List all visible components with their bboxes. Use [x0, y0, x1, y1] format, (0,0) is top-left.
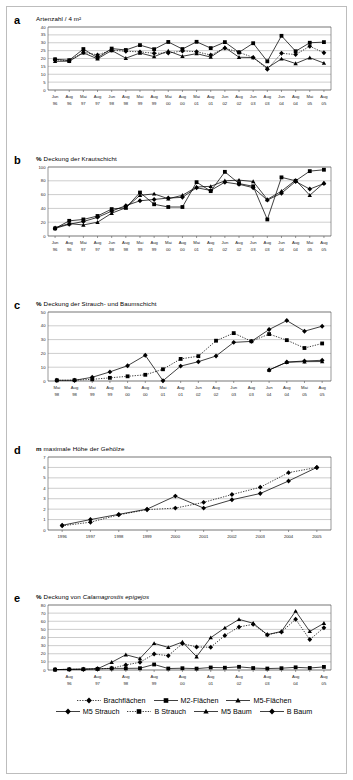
legend-item-m5-strauch[interactable]: M5 Strauch	[55, 707, 120, 716]
x-axis-label-year: 97	[81, 101, 86, 106]
panel-title-text: Artenzahl / 4 m²	[36, 15, 81, 22]
marker-diamond	[173, 494, 178, 499]
marker-diamond	[307, 187, 312, 192]
x-axis-label-month: Aug	[122, 240, 130, 245]
marker-diamond	[230, 492, 235, 497]
y-axis-tick: 5	[43, 475, 46, 480]
x-axis-label-month: Mai	[160, 385, 167, 390]
panel-title-text: Deckung der Strauch- und Baumschicht	[44, 300, 157, 307]
x-axis-label-month: Mai	[53, 385, 60, 390]
marker-diamond	[258, 485, 263, 490]
x-axis-label-year: 05	[322, 101, 327, 106]
x-axis-label-year: 99	[138, 247, 143, 252]
marker-diamond	[320, 324, 325, 329]
y-axis-tick: 4	[43, 486, 46, 491]
x-axis-label-month: 1999	[142, 534, 152, 539]
x-axis-label-month: Aug	[283, 385, 291, 390]
marker-diamond	[269, 709, 275, 715]
panel-title-text: Deckung der Krautschicht	[44, 155, 117, 162]
x-axis-label-month: Aug	[248, 385, 256, 390]
x-axis-label-month: 2004	[284, 534, 294, 539]
marker-square	[195, 40, 199, 44]
x-axis-label-month: Jun	[221, 240, 228, 245]
legend-glyph-diamond	[55, 707, 81, 716]
x-axis-label-month: Jun	[250, 240, 257, 245]
series-line-m2-flächen	[55, 36, 324, 62]
legend-item-b-strauch[interactable]: B Strauch	[126, 707, 186, 716]
x-axis-label-year: 04	[267, 392, 272, 397]
y-axis-tick: 10	[41, 659, 46, 664]
panel-container: aArtenzahl / 4 m²0510152025303540Jun96Au…	[14, 12, 339, 770]
legend-row-1: BrachflächenM2-FlächenM5-Flächen	[32, 696, 335, 705]
marker-square	[163, 698, 168, 703]
marker-square	[320, 342, 324, 346]
x-axis-label-month: Mai	[124, 385, 131, 390]
x-axis-label-year: 01	[208, 101, 213, 106]
legend-item-m2-flächen[interactable]: M2-Flächen	[153, 696, 219, 705]
x-axis-label-month: Aug	[179, 94, 187, 99]
x-axis-label-month: Aug	[177, 385, 185, 390]
x-axis-label-month: Aug	[150, 674, 158, 679]
marker-square	[166, 667, 170, 671]
marker-square	[251, 184, 255, 188]
x-axis-label-year: 98	[123, 681, 128, 686]
x-axis-label-month: Mai	[137, 240, 144, 245]
y-axis-tick: 2	[43, 507, 46, 512]
marker-square	[110, 207, 114, 211]
y-axis-tick: 50	[41, 310, 46, 315]
x-axis-label-year: 98	[72, 392, 77, 397]
marker-square	[209, 46, 213, 50]
y-axis-tick: 0	[43, 668, 46, 673]
marker-diamond	[307, 637, 312, 642]
series-line-m5-flächen	[55, 180, 324, 228]
y-axis-tick: 6	[43, 465, 46, 470]
x-axis-label-year: 00	[143, 392, 148, 397]
marker-diamond	[88, 517, 93, 522]
x-axis-label-month: 1996	[57, 534, 67, 539]
x-axis-label-month: Jun	[195, 385, 202, 390]
panel-title-text: maximale Höhe der Gehölze	[44, 445, 125, 452]
marker-square	[280, 34, 284, 38]
x-axis-label-month: Aug	[235, 674, 243, 679]
x-axis-label-month: 2002	[227, 534, 237, 539]
legend-item-m5-baum[interactable]: M5 Baum	[193, 707, 252, 716]
marker-square	[110, 666, 114, 670]
x-axis-label-month: Aug	[65, 94, 73, 99]
marker-square	[265, 59, 269, 63]
plot-area-a: 0510152025303540Jun96Aug96Mai97Aug97Jun9…	[32, 24, 335, 110]
panel-title-d: mmaximale Höhe der Gehölze	[36, 445, 125, 452]
legend-label: M2-Flächen	[181, 696, 219, 705]
x-axis-label-year: 02	[196, 392, 201, 397]
x-axis-label-month: 2000	[171, 534, 181, 539]
marker-diamond	[116, 512, 121, 517]
legend-glyph-triangle	[193, 707, 219, 716]
x-axis-label-year: 99	[152, 101, 157, 106]
chart-panel-b: b%Deckung der Krautschicht020406080100Ju…	[14, 152, 339, 292]
marker-diamond	[173, 506, 178, 511]
x-axis-label-month: Jun	[52, 94, 59, 99]
marker-square	[251, 666, 255, 670]
marker-diamond	[65, 709, 71, 715]
x-axis-label-month: Aug	[65, 674, 73, 679]
x-axis-label-month: Aug	[142, 385, 150, 390]
marker-square	[81, 218, 85, 222]
x-axis-label-year: 03	[265, 101, 270, 106]
marker-square	[265, 218, 269, 222]
legend-item-b-baum[interactable]: B Baum	[259, 707, 313, 716]
legend-item-brachflächen[interactable]: Brachflächen	[76, 696, 146, 705]
x-axis-label-month: Jun	[250, 94, 257, 99]
x-axis-label-year: 04	[293, 101, 298, 106]
chart-svg-b: 020406080100Jun96Aug96Mai97Aug97Jun98Aug…	[32, 164, 345, 256]
legend-item-m5-flächen[interactable]: M5-Flächen	[225, 696, 291, 705]
x-axis-label-year: 04	[279, 247, 284, 252]
marker-triangle	[223, 626, 227, 630]
y-axis-tick: 15	[41, 64, 46, 69]
x-axis-label-month: 1997	[86, 534, 96, 539]
marker-diamond	[60, 523, 65, 528]
marker-square	[294, 49, 298, 53]
plot-area-e: 01020304050607080Aug96Aug97Aug98Aug99Aug…	[32, 602, 335, 690]
panel-unit-c: %	[36, 300, 42, 307]
x-axis-label-year: 00	[166, 101, 171, 106]
x-axis-label-year: 03	[231, 392, 236, 397]
marker-square	[166, 205, 170, 209]
